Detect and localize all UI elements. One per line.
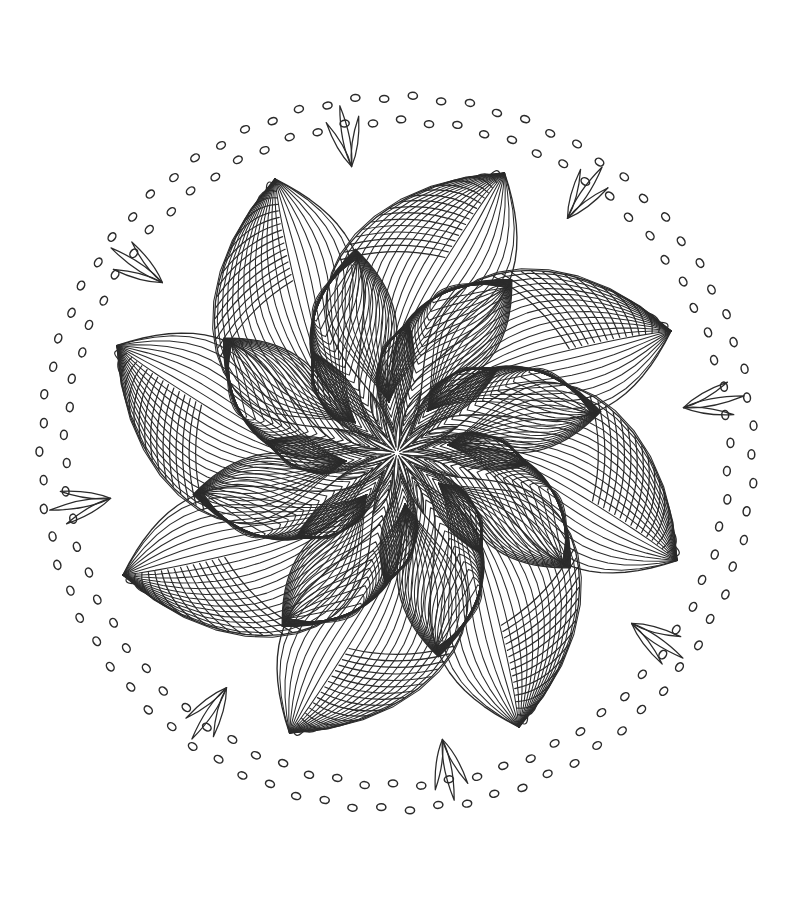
illustration-canvas [0,0,787,910]
mandala-artwork [0,0,787,910]
